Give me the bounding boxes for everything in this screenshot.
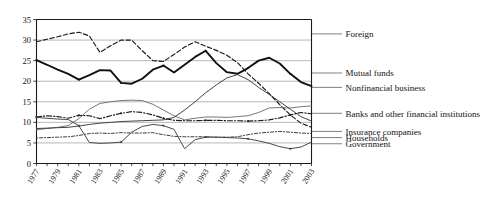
series-marker [247, 120, 249, 122]
series-line-insurance-companies [37, 131, 312, 138]
legend-label-foreign: Foreign [346, 29, 374, 39]
series-marker [36, 117, 38, 119]
series-marker [120, 141, 122, 143]
series-marker [36, 59, 38, 61]
legend-label-banks-and-other-financial-institutions: Banks and other financial institutions [346, 109, 481, 119]
chart-container: 0510152025303519771979198119831985198719… [0, 0, 482, 214]
xtick-label-1995: 1995 [216, 167, 232, 185]
series-group [36, 32, 312, 149]
series-marker [205, 119, 207, 121]
xtick-label-1977: 1977 [25, 167, 41, 185]
xtick-label-2003: 2003 [300, 167, 316, 185]
series-marker [163, 65, 165, 67]
xtick-label-1997: 1997 [237, 167, 253, 185]
xtick-label-1991: 1991 [173, 167, 189, 185]
xtick-label-1983: 1983 [89, 167, 105, 185]
series-marker [289, 148, 291, 150]
series-marker [120, 112, 122, 114]
series-marker [247, 67, 249, 69]
legend-label-government: Government [346, 139, 391, 149]
xtick-label-1999: 1999 [258, 167, 274, 185]
xtick-label-2001: 2001 [279, 167, 295, 185]
series-marker [205, 136, 207, 138]
series-line-foreign [37, 51, 312, 86]
series-marker [78, 79, 80, 81]
ytick-label-25: 25 [23, 56, 32, 66]
series-marker [247, 138, 249, 140]
legend-label-mutual-funds: Mutual funds [346, 68, 395, 78]
series-marker [78, 114, 80, 116]
series-marker [289, 73, 291, 75]
xtick-label-1981: 1981 [68, 167, 84, 185]
series-marker [78, 125, 80, 127]
xtick-label-1987: 1987 [131, 167, 147, 185]
series-marker [120, 82, 122, 84]
legend-label-nonfinancial-business: Nonfinancial business [346, 83, 426, 93]
ytick-label-30: 30 [23, 35, 32, 45]
xtick-label-1989: 1989 [152, 167, 168, 185]
ytick-label-5: 5 [27, 138, 31, 148]
series-marker [163, 117, 165, 119]
series-marker [163, 125, 165, 127]
xtick-label-1985: 1985 [110, 167, 126, 185]
ytick-label-0: 0 [27, 159, 31, 169]
line-chart: 0510152025303519771979198119831985198719… [0, 0, 482, 214]
series-marker [289, 114, 291, 116]
series-marker [205, 50, 207, 52]
xtick-label-1993: 1993 [195, 167, 211, 185]
xtick-label-1979: 1979 [46, 167, 62, 185]
ytick-label-15: 15 [23, 97, 32, 107]
ytick-label-10: 10 [23, 117, 32, 127]
ytick-label-35: 35 [23, 15, 32, 25]
ytick-label-20: 20 [23, 76, 32, 86]
